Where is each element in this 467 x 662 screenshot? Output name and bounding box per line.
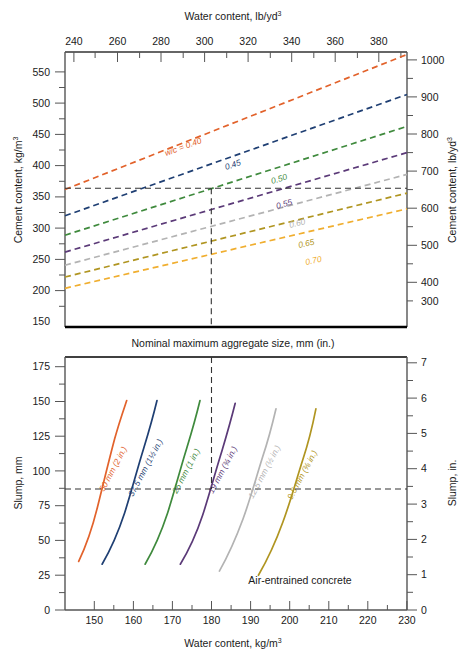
bottom-x-tick-230: 230 xyxy=(398,614,416,626)
top-right-tick-900: 900 xyxy=(421,91,439,103)
bottom-left-axis-title: Slump, mm xyxy=(12,456,24,509)
top-right-axis-title: Cement content, lb/yd3 xyxy=(446,137,458,243)
top-left-ticklabels: 550 500 450 400 350 300 250 200 150 xyxy=(32,66,50,328)
top-tick-280: 280 xyxy=(152,35,170,47)
bottom-left-tick-25: 25 xyxy=(38,569,50,581)
combined-chart-svg: Water content, lb/yd3 240 260 xyxy=(0,0,467,662)
bottom-x-tick-180: 180 xyxy=(203,614,221,626)
top-left-tick-200: 200 xyxy=(32,284,50,296)
bottom-x-tick-160: 160 xyxy=(125,614,143,626)
top-right-tick-500: 500 xyxy=(421,239,439,251)
top-right-tick-400: 400 xyxy=(421,276,439,288)
bottom-left-tick-100: 100 xyxy=(32,465,50,477)
top-left-tick-450: 450 xyxy=(32,128,50,140)
bottom-left-tick-125: 125 xyxy=(32,430,50,442)
bottom-right-tick-5: 5 xyxy=(421,427,427,439)
bottom-left-tick-150: 150 xyxy=(32,395,50,407)
bottom-left-tick-50: 50 xyxy=(38,534,50,546)
bottom-axis-title: Water content, kg/m3 xyxy=(184,637,282,649)
bottom-left-tick-175: 175 xyxy=(32,360,50,372)
aggregate-size-title: Nominal maximum aggregate size, mm (in.) xyxy=(131,337,334,349)
bottom-right-tick-0: 0 xyxy=(421,604,427,616)
top-left-tick-300: 300 xyxy=(32,222,50,234)
air-entrained-note: Air-entrained concrete xyxy=(248,574,351,586)
top-right-tick-800: 800 xyxy=(421,128,439,140)
top-left-axis-title: Cement content, kg/m3 xyxy=(12,137,24,244)
top-left-tick-250: 250 xyxy=(32,253,50,265)
top-left-tick-150: 150 xyxy=(32,315,50,327)
figure-root: Water content, lb/yd3 240 260 xyxy=(0,0,467,662)
bottom-x-tick-200: 200 xyxy=(281,614,299,626)
top-right-tick-700: 700 xyxy=(421,165,439,177)
bottom-right-tick-3: 3 xyxy=(421,498,427,510)
bottom-right-tick-6: 6 xyxy=(421,392,427,404)
bottom-x-tick-220: 220 xyxy=(359,614,377,626)
top-left-tick-550: 550 xyxy=(32,66,50,78)
bottom-x-ticklabels: 150 160 170 180 190 200 210 220 230 xyxy=(86,614,416,626)
bottom-x-tick-150: 150 xyxy=(86,614,104,626)
top-tick-240: 240 xyxy=(65,35,83,47)
top-tick-380: 380 xyxy=(370,35,388,47)
top-left-tick-400: 400 xyxy=(32,159,50,171)
canvas-background xyxy=(0,0,467,662)
bottom-x-tick-170: 170 xyxy=(164,614,182,626)
top-tick-320: 320 xyxy=(239,35,257,47)
top-right-tick-600: 600 xyxy=(421,202,439,214)
top-tick-300: 300 xyxy=(196,35,214,47)
bottom-left-tick-0: 0 xyxy=(44,604,50,616)
bottom-left-tick-75: 75 xyxy=(38,499,50,511)
top-tick-340: 340 xyxy=(283,35,301,47)
top-right-tick-1000: 1000 xyxy=(421,54,445,66)
bottom-right-tick-7: 7 xyxy=(421,356,427,368)
top-tick-360: 360 xyxy=(326,35,344,47)
top-tick-260: 260 xyxy=(109,35,127,47)
bottom-right-axis-title: Slump, in. xyxy=(446,460,458,507)
bottom-x-tick-190: 190 xyxy=(242,614,260,626)
top-left-tick-350: 350 xyxy=(32,190,50,202)
bottom-right-tick-4: 4 xyxy=(421,462,427,474)
top-left-tick-500: 500 xyxy=(32,97,50,109)
bottom-right-tick-2: 2 xyxy=(421,533,427,545)
top-axis-title: Water content, lb/yd3 xyxy=(185,10,282,22)
bottom-right-tick-1: 1 xyxy=(421,568,427,580)
bottom-x-tick-210: 210 xyxy=(320,614,338,626)
top-right-tick-300: 300 xyxy=(421,295,439,307)
